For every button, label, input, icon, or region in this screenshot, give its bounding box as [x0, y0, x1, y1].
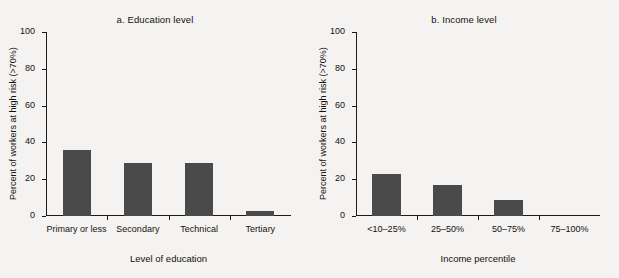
x-tick-label-b-2: 50–75% — [492, 224, 525, 234]
y-axis-title-b: Percent of workers at high risk (>70%) — [316, 32, 330, 216]
x-tick-label-b-3: 75–100% — [550, 224, 588, 234]
x-tick-labels-b: <10–25%25–50%50–75%75–100% — [356, 216, 600, 238]
plot-area-b: 020406080100 <10–25%25–50%50–75%75–100% — [356, 32, 600, 216]
y-tick-b-60: 60 — [352, 106, 356, 107]
chart-panel-education: a. Education level Percent of workers at… — [0, 0, 310, 278]
chart-panel-income: b. Income level Percent of workers at hi… — [309, 0, 619, 278]
y-axis-line-b — [356, 32, 357, 216]
y-tick-label-a-100: 100 — [20, 26, 35, 36]
bar-b-1 — [433, 185, 461, 216]
y-tick-a-80: 80 — [42, 69, 46, 70]
plot-area-a: 020406080100 Primary or lessSecondaryTec… — [46, 32, 291, 216]
figure-container: a. Education level Percent of workers at… — [0, 0, 619, 278]
y-tick-a-100: 100 — [42, 32, 46, 33]
y-tick-label-b-20: 20 — [335, 173, 345, 183]
bar-a-0 — [63, 150, 91, 216]
x-tick-label-a-2: Technical — [180, 224, 218, 234]
x-axis-title-b: Income percentile — [356, 253, 600, 264]
y-tick-label-b-60: 60 — [335, 100, 345, 110]
y-tick-label-a-60: 60 — [25, 100, 35, 110]
x-tick-labels-a: Primary or lessSecondaryTechnicalTertiar… — [46, 216, 291, 238]
y-tick-b-80: 80 — [352, 69, 356, 70]
y-tick-b-100: 100 — [352, 32, 356, 33]
y-tick-label-a-0: 0 — [30, 210, 35, 220]
y-tick-a-40: 40 — [42, 142, 46, 143]
y-tick-label-a-20: 20 — [25, 173, 35, 183]
x-tick-label-a-3: Tertiary — [246, 224, 276, 234]
y-tick-label-b-40: 40 — [335, 136, 345, 146]
x-tick-label-b-1: 25–50% — [431, 224, 464, 234]
y-tick-a-20: 20 — [42, 179, 46, 180]
y-axis-title-a: Percent of workers at high risk (>70%) — [6, 32, 20, 216]
y-tick-label-a-40: 40 — [25, 136, 35, 146]
x-tick-label-a-1: Secondary — [116, 224, 159, 234]
y-tick-label-b-80: 80 — [335, 63, 345, 73]
bar-a-2 — [185, 163, 213, 216]
y-axis-line-a — [46, 32, 47, 216]
y-tick-label-b-0: 0 — [340, 210, 345, 220]
bar-b-2 — [494, 200, 522, 216]
bar-a-1 — [124, 163, 152, 216]
y-tick-a-60: 60 — [42, 106, 46, 107]
y-tick-label-a-80: 80 — [25, 63, 35, 73]
x-axis-title-a: Level of education — [46, 253, 291, 264]
y-tick-label-b-100: 100 — [330, 26, 345, 36]
x-tick-label-a-0: Primary or less — [47, 224, 107, 234]
x-tick-label-b-0: <10–25% — [367, 224, 405, 234]
panel-title-b: b. Income level — [309, 14, 619, 25]
y-tick-b-20: 20 — [352, 179, 356, 180]
y-tick-b-40: 40 — [352, 142, 356, 143]
bar-b-0 — [372, 174, 400, 216]
panel-title-a: a. Education level — [0, 14, 310, 25]
